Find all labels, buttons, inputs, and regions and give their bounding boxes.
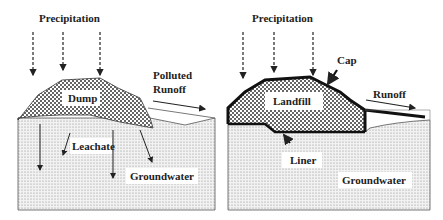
landfill-label: Landfill — [273, 95, 311, 107]
runoff-surface — [148, 108, 215, 118]
runoff-arrow — [366, 100, 415, 108]
dump-label: Dump — [68, 92, 97, 104]
cap-pointer-arrow — [328, 70, 337, 84]
runoff-label: Runoff — [373, 88, 406, 100]
cap-label: Cap — [337, 54, 357, 66]
groundwater-label: Groundwater — [130, 170, 194, 182]
runoff-label: Runoff — [153, 83, 186, 95]
ground-soil — [18, 118, 215, 210]
ground-soil — [228, 120, 430, 210]
landfill-panel: Precipitation Landfill Cap Runoff Liner … — [228, 12, 430, 210]
polluted-label: Polluted — [153, 69, 192, 81]
polluted-runoff-arrow — [153, 101, 205, 109]
dump-panel: Precipitation Dump Polluted Runoff Leach… — [18, 12, 215, 210]
leachate-label: Leachate — [72, 140, 115, 152]
liner-label: Liner — [290, 154, 316, 166]
precipitation-label: Precipitation — [252, 12, 313, 24]
dump-vs-landfill-diagram: Precipitation Dump Polluted Runoff Leach… — [0, 0, 443, 220]
precipitation-arrows — [33, 32, 100, 75]
precipitation-arrows — [243, 32, 313, 78]
groundwater-label: Groundwater — [342, 174, 406, 186]
precipitation-label: Precipitation — [39, 12, 100, 24]
